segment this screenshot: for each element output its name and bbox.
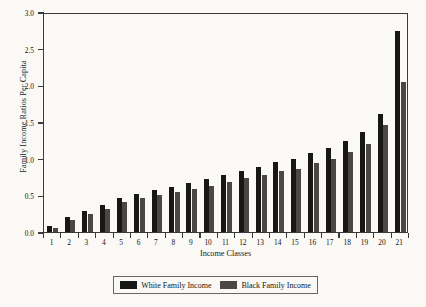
chart-legend: White Family Income Black Family Income — [113, 276, 318, 294]
y-axis-tick-label: 0.0 — [0, 229, 34, 238]
y-axis-tick-label: 1.5 — [0, 119, 34, 128]
bar-black-income — [53, 228, 58, 232]
bar-black-income — [279, 171, 284, 232]
bar-black-income — [366, 144, 371, 232]
y-axis-tick-label: 3.0 — [0, 9, 34, 18]
bar-white-income — [291, 159, 296, 232]
x-axis-tick-label: 15 — [286, 238, 304, 247]
y-axis-tick-label: 1.0 — [0, 155, 34, 164]
bar-black-income — [227, 182, 232, 232]
bar-group — [204, 14, 215, 232]
x-axis-tick-label: 4 — [95, 238, 113, 247]
bar-white-income — [117, 198, 122, 232]
black-income-swatch — [220, 281, 237, 289]
bar-white-income — [169, 187, 174, 232]
bar-black-income — [348, 152, 353, 232]
bar-black-income — [140, 198, 145, 232]
x-axis-tick-label: 14 — [269, 238, 287, 247]
legend-label-white: White Family Income — [141, 281, 211, 290]
bar-white-income — [100, 205, 105, 232]
bar-group — [326, 14, 337, 232]
bar-white-income — [47, 226, 52, 232]
bar-group — [65, 14, 76, 232]
bar-black-income — [122, 202, 127, 232]
bar-black-income — [209, 186, 214, 232]
bar-group — [47, 14, 58, 232]
x-axis-tick-label: 5 — [112, 238, 130, 247]
x-axis-tick-label: 7 — [147, 238, 165, 247]
bar-black-income — [192, 189, 197, 232]
x-axis-tick-label: 20 — [373, 238, 391, 247]
bar-black-income — [383, 125, 388, 232]
x-axis-tick-label: 8 — [164, 238, 182, 247]
bar-white-income — [273, 162, 278, 232]
bar-group — [273, 14, 284, 232]
bar-group — [343, 14, 354, 232]
bar-group — [395, 14, 406, 232]
x-axis-title: Income Classes — [43, 249, 408, 258]
bar-black-income — [296, 169, 301, 232]
x-axis-tick-label: 3 — [77, 238, 95, 247]
x-axis-tick-label: 13 — [251, 238, 269, 247]
bar-black-income — [175, 192, 180, 232]
bar-group — [100, 14, 111, 232]
bar-group — [256, 14, 267, 232]
x-axis-tick-label: 1 — [43, 238, 61, 247]
bar-group — [82, 14, 93, 232]
bar-group — [360, 14, 371, 232]
bar-group — [221, 14, 232, 232]
bar-group — [308, 14, 319, 232]
bar-white-income — [395, 31, 400, 232]
bar-black-income — [262, 175, 267, 232]
bar-white-income — [221, 175, 226, 232]
x-axis-tick-label: 16 — [303, 238, 321, 247]
y-axis-tick-label: 0.5 — [0, 192, 34, 201]
bar-group — [378, 14, 389, 232]
y-axis-tick-label: 2.0 — [0, 82, 34, 91]
bar-group — [186, 14, 197, 232]
x-axis-tick-label: 2 — [60, 238, 78, 247]
bar-white-income — [152, 190, 157, 232]
x-axis-tick — [408, 233, 409, 238]
bar-white-income — [326, 148, 331, 232]
x-axis-tick-label: 6 — [130, 238, 148, 247]
bar-white-income — [256, 167, 261, 232]
bar-group — [291, 14, 302, 232]
bar-white-income — [204, 179, 209, 232]
x-axis-tick-label: 12 — [234, 238, 252, 247]
x-axis-tick-label: 11 — [217, 238, 235, 247]
x-axis-tick-label: 21 — [390, 238, 408, 247]
legend-item-black: Black Family Income — [220, 281, 310, 290]
bar-white-income — [134, 194, 139, 232]
plot-area — [43, 13, 408, 233]
x-axis-tick-label: 19 — [356, 238, 374, 247]
bar-white-income — [378, 114, 383, 232]
legend-item-white: White Family Income — [120, 281, 211, 290]
white-income-swatch — [120, 281, 137, 289]
bar-white-income — [360, 132, 365, 232]
x-axis-tick-label: 10 — [199, 238, 217, 247]
bar-series-container — [44, 14, 407, 232]
bar-white-income — [308, 153, 313, 232]
bar-black-income — [88, 214, 93, 232]
bar-white-income — [343, 141, 348, 232]
bar-black-income — [105, 209, 110, 232]
x-axis-tick-label: 18 — [338, 238, 356, 247]
bar-black-income — [401, 82, 406, 232]
x-axis-tick-label: 17 — [321, 238, 339, 247]
bar-group — [239, 14, 250, 232]
bar-white-income — [82, 211, 87, 232]
x-axis-tick-label: 9 — [182, 238, 200, 247]
bar-group — [117, 14, 128, 232]
bar-chart: Family Income Ratios Per Capita 0.00.51.… — [0, 0, 426, 307]
bar-black-income — [70, 220, 75, 232]
bar-white-income — [65, 217, 70, 232]
bar-white-income — [239, 171, 244, 232]
bar-group — [152, 14, 163, 232]
bar-black-income — [314, 163, 319, 232]
bar-white-income — [186, 183, 191, 232]
bar-black-income — [331, 159, 336, 232]
bar-group — [169, 14, 180, 232]
bar-black-income — [157, 195, 162, 232]
bar-group — [134, 14, 145, 232]
